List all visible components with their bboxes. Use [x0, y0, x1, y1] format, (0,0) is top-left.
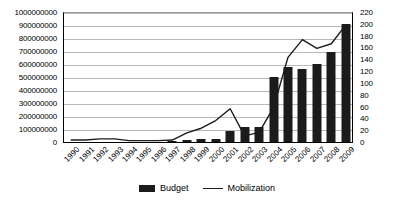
y-axis-left-tick: 300000000 — [19, 100, 57, 108]
y-axis-left-tick: 500000000 — [19, 74, 57, 82]
line-series-mobilization — [64, 13, 353, 143]
y-axis-left-tick: 900000000 — [19, 22, 57, 30]
y-axis-right-tick: 140 — [360, 56, 373, 64]
y-axis-left-tick: 200000000 — [19, 113, 57, 121]
y-axis-left-tick: 800000000 — [19, 35, 57, 43]
legend-line-swatch-icon — [203, 188, 223, 189]
plot-area — [63, 12, 353, 143]
legend-label-budget: Budget — [160, 184, 189, 193]
y-axis-left-labels: 0100000000200000000300000000400000000500… — [0, 12, 60, 143]
y-axis-left-tick: 0 — [53, 139, 57, 147]
y-axis-right-tick: 0 — [360, 139, 364, 147]
y-axis-right-tick: 60 — [360, 104, 369, 112]
y-axis-right-tick: 220 — [360, 9, 373, 17]
y-axis-left-tick: 700000000 — [19, 48, 57, 56]
legend-item-budget: Budget — [139, 184, 189, 193]
y-axis-right-labels: 020406080100120140160180200220 — [356, 12, 412, 143]
y-axis-left-tick: 100000000 — [19, 126, 57, 134]
y-axis-right-tick: 160 — [360, 44, 373, 52]
y-axis-left-tick: 400000000 — [19, 87, 57, 95]
chart-legend: Budget Mobilization — [0, 180, 414, 196]
y-axis-right-tick: 120 — [360, 68, 373, 76]
y-axis-right-tick: 200 — [360, 21, 373, 29]
y-axis-right-tick: 20 — [360, 127, 369, 135]
y-axis-left-tick: 600000000 — [19, 61, 57, 69]
y-axis-right-tick: 180 — [360, 33, 373, 41]
y-axis-right-tick: 80 — [360, 92, 369, 100]
legend-label-mobilization: Mobilization — [228, 184, 276, 193]
y-axis-right-tick: 100 — [360, 80, 373, 88]
y-axis-right-tick: 40 — [360, 115, 369, 123]
y-axis-left-tick: 1000000000 — [15, 9, 58, 17]
legend-bar-swatch-icon — [139, 185, 155, 192]
chart-container: 0100000000200000000300000000400000000500… — [0, 0, 414, 201]
legend-item-mobilization: Mobilization — [203, 184, 276, 193]
